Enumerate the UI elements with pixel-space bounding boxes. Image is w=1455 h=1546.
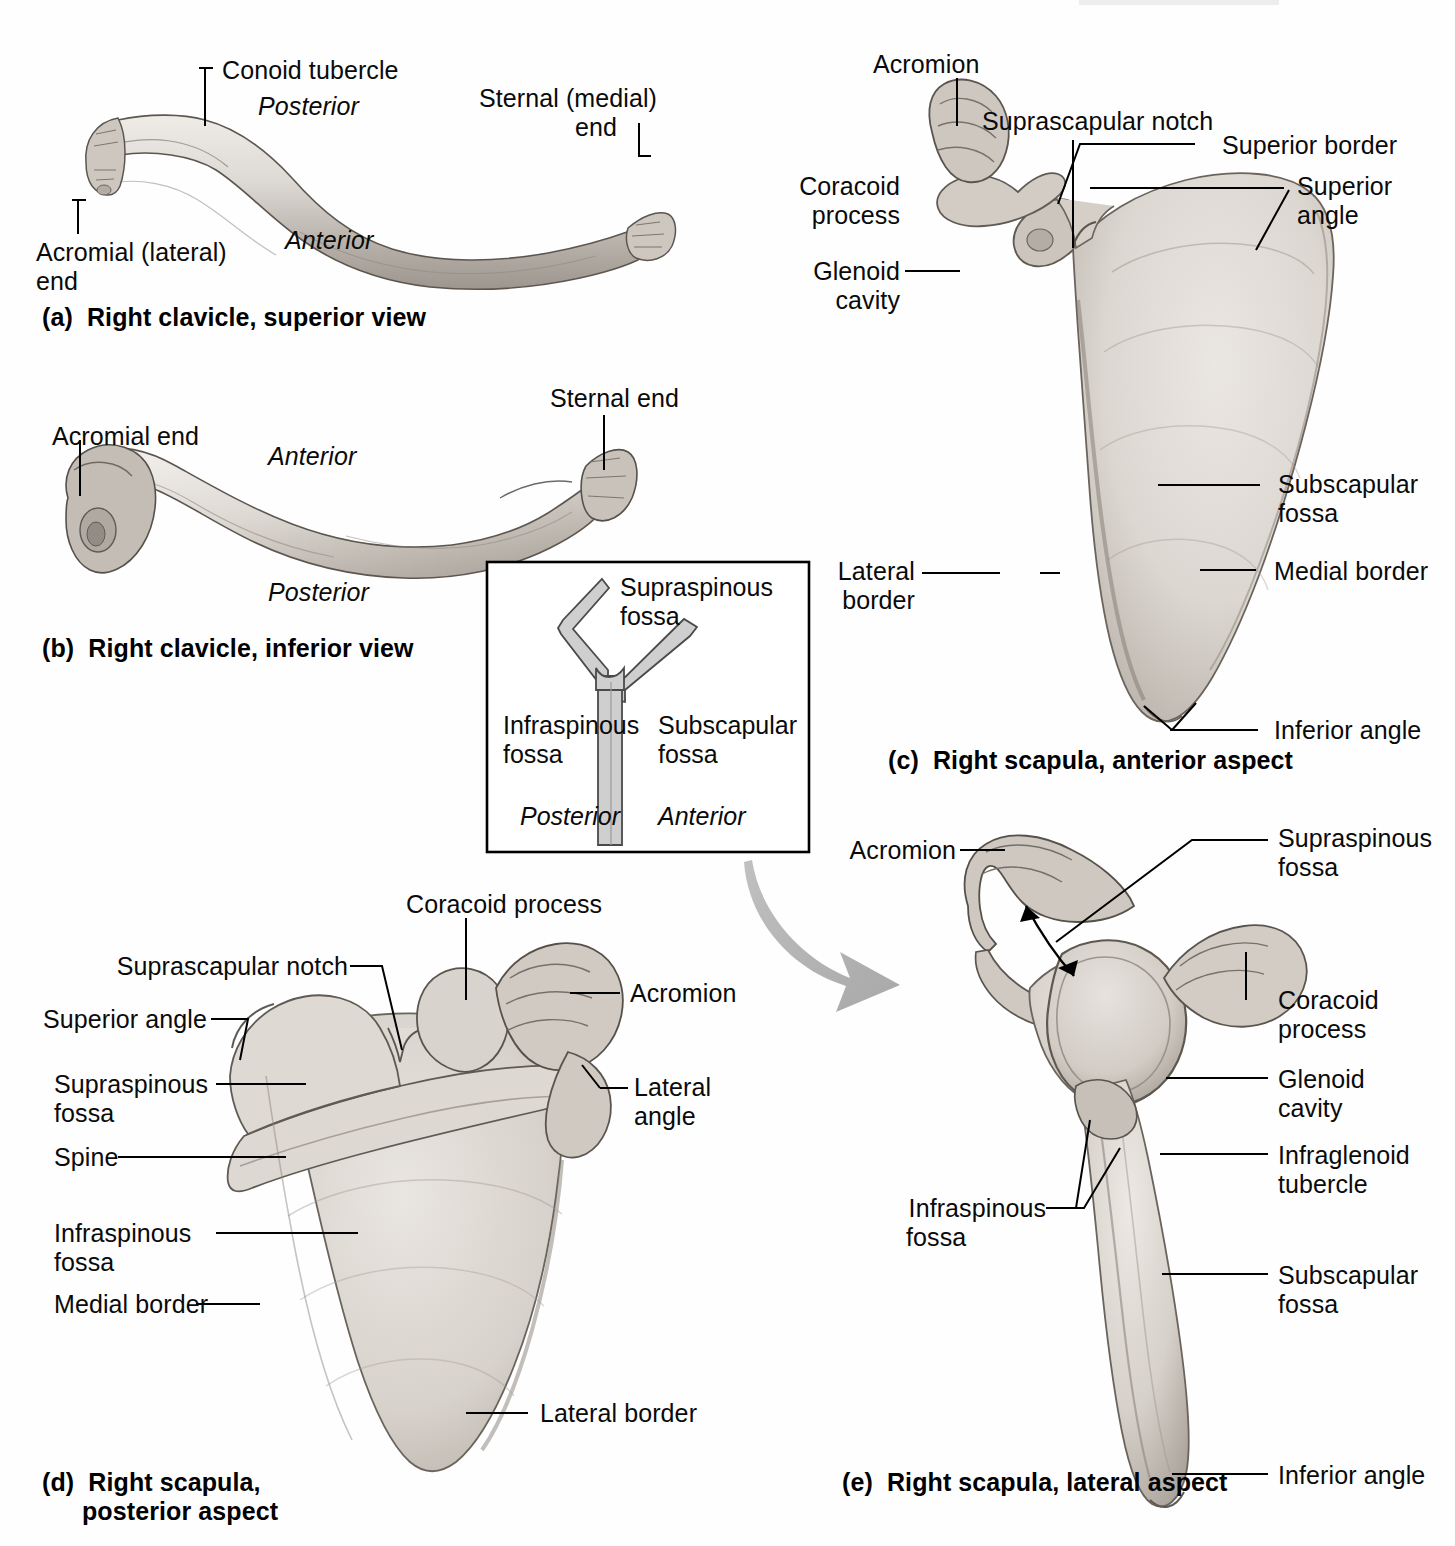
label-c-subscapular-fossa-line1: Subscapular	[1278, 470, 1418, 499]
inset-label-supraspinous-fossa-line2: fossa	[620, 602, 680, 631]
label-d-medial-border: Medial border	[54, 1290, 208, 1319]
label-c-superior-angle-line2: angle	[1297, 201, 1359, 230]
caption-panel-e: (e) Right scapula, lateral aspect	[842, 1467, 1227, 1497]
label-sternal-medial-end-line2: end	[380, 113, 617, 142]
label-c-acromion: Acromion	[873, 50, 979, 79]
label-e-inferior-angle: Inferior angle	[1278, 1461, 1425, 1490]
label-c-subscapular-fossa-line2: fossa	[1278, 499, 1338, 528]
label-acromial-lateral-end-line2: end	[36, 267, 78, 296]
caption-panel-d-line2: posterior aspect	[82, 1496, 278, 1526]
label-c-glenoid-cavity-line1: Glenoid	[760, 257, 900, 286]
label-d-superior-angle: Superior angle	[35, 1005, 207, 1034]
inset-label-posterior: Posterior	[520, 802, 620, 831]
label-d-lateral-border: Lateral border	[540, 1399, 697, 1428]
label-e-infraglenoid-tubercle-line1: Infraglenoid	[1278, 1141, 1410, 1170]
label-posterior-a: Posterior	[258, 92, 359, 121]
label-d-lateral-angle-line1: Lateral	[634, 1073, 711, 1102]
label-e-subscapular-fossa-line1: Subscapular	[1278, 1261, 1418, 1290]
label-e-acromion: Acromion	[820, 836, 956, 865]
label-c-superior-angle-line1: Superior	[1297, 172, 1392, 201]
inset-label-supraspinous-fossa-line1: Supraspinous	[620, 573, 773, 602]
label-conoid-tubercle: Conoid tubercle	[222, 56, 399, 85]
label-d-infraspinous-fossa-line1: Infraspinous	[54, 1219, 191, 1248]
inset-label-infraspinous-fossa-line2: fossa	[503, 740, 563, 769]
inset-label-anterior: Anterior	[658, 802, 746, 831]
label-c-medial-border: Medial border	[1274, 557, 1428, 586]
label-e-infraspinous-fossa-line1: Infraspinous	[880, 1194, 1046, 1223]
label-d-coracoid-process: Coracoid process	[406, 890, 602, 919]
inset-label-infraspinous-fossa-line1: Infraspinous	[503, 711, 639, 740]
figure-page: Conoid tubercle Posterior Sternal (media…	[0, 0, 1455, 1546]
label-e-glenoid-cavity-line1: Glenoid	[1278, 1065, 1365, 1094]
label-d-suprascapular-notch: Suprascapular notch	[90, 952, 348, 981]
label-acromial-lateral-end-line1: Acromial (lateral)	[36, 238, 227, 267]
label-e-supraspinous-fossa-line1: Supraspinous	[1278, 824, 1432, 853]
label-d-supraspinous-fossa-line2: fossa	[54, 1099, 114, 1128]
label-anterior-a: Anterior	[285, 226, 373, 255]
caption-panel-c: (c) Right scapula, anterior aspect	[888, 745, 1293, 775]
label-c-lateral-border-line1: Lateral	[790, 557, 915, 586]
label-c-lateral-border-line2: border	[790, 586, 915, 615]
caption-panel-a: (a) Right clavicle, superior view	[42, 302, 426, 332]
cropped-running-head-remnant	[1079, 0, 1279, 5]
label-c-inferior-angle: Inferior angle	[1274, 716, 1421, 745]
label-posterior-b: Posterior	[268, 578, 369, 607]
inset-label-subscapular-fossa-line2: fossa	[658, 740, 718, 769]
label-e-infraspinous-fossa-line2: fossa	[906, 1223, 966, 1252]
scapula-anterior-bone	[929, 80, 1333, 722]
label-e-supraspinous-fossa-line2: fossa	[1278, 853, 1338, 882]
label-c-suprascapular-notch: Suprascapular notch	[982, 107, 1213, 136]
label-d-lateral-angle-line2: angle	[634, 1102, 696, 1131]
inset-label-subscapular-fossa-line1: Subscapular	[658, 711, 797, 740]
label-c-coracoid-process-line2: process	[760, 201, 900, 230]
inset-to-lateral-view-arrow	[744, 860, 900, 1012]
caption-panel-b: (b) Right clavicle, inferior view	[42, 633, 414, 663]
scapula-posterior-bone	[228, 943, 623, 1471]
scapula-lateral-bone	[965, 835, 1307, 1507]
label-c-coracoid-process-line1: Coracoid	[760, 172, 900, 201]
label-d-infraspinous-fossa-line2: fossa	[54, 1248, 114, 1277]
label-c-superior-border: Superior border	[1222, 131, 1397, 160]
label-d-spine: Spine	[54, 1143, 118, 1172]
label-c-glenoid-cavity-line2: cavity	[760, 286, 900, 315]
label-acromial-end: Acromial end	[52, 422, 199, 451]
label-e-coracoid-process-line2: process	[1278, 1015, 1366, 1044]
caption-panel-d-line1: (d) Right scapula,	[42, 1467, 261, 1497]
label-e-glenoid-cavity-line2: cavity	[1278, 1094, 1343, 1123]
label-sternal-end: Sternal end	[550, 384, 679, 413]
label-sternal-medial-end-line1: Sternal (medial)	[380, 84, 657, 113]
label-d-acromion: Acromion	[630, 979, 736, 1008]
label-e-infraglenoid-tubercle-line2: tubercle	[1278, 1170, 1368, 1199]
label-e-subscapular-fossa-line2: fossa	[1278, 1290, 1338, 1319]
label-d-supraspinous-fossa-line1: Supraspinous	[54, 1070, 208, 1099]
label-anterior-b: Anterior	[268, 442, 356, 471]
label-e-coracoid-process-line1: Coracoid	[1278, 986, 1379, 1015]
